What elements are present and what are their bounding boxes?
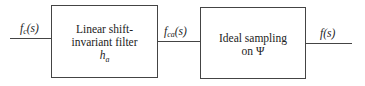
- output-arrow: [305, 43, 352, 44]
- sampling-block: Ideal sampling on Ψ: [200, 7, 306, 79]
- output-signal-label: f(s): [320, 27, 335, 39]
- filter-line1: Linear shift-: [52, 23, 157, 36]
- sampling-line2: on Ψ: [201, 45, 305, 58]
- intermediate-arrow: [157, 41, 200, 42]
- filter-block-text: Linear shift- invariant filter ha: [52, 23, 157, 66]
- sampling-block-text: Ideal sampling on Ψ: [201, 32, 305, 58]
- sampling-line1: Ideal sampling: [201, 32, 305, 45]
- intermediate-signal-label: fca(s): [164, 25, 187, 39]
- input-arrow: [10, 38, 51, 39]
- filter-symbol: ha: [52, 49, 157, 66]
- input-signal-label: fc(s): [20, 22, 39, 36]
- filter-block: Linear shift- invariant filter ha: [51, 5, 158, 78]
- filter-line2: invariant filter: [52, 36, 157, 49]
